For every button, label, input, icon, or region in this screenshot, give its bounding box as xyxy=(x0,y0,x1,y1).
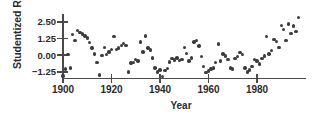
data-point xyxy=(73,39,76,42)
x-axis-tick-label: 1940 xyxy=(140,84,180,95)
data-point xyxy=(277,46,280,49)
data-point xyxy=(292,24,295,27)
x-axis-line xyxy=(62,78,306,80)
data-point xyxy=(88,41,91,44)
data-point xyxy=(231,67,234,70)
x-axis-title-text: Year xyxy=(124,100,191,111)
data-point xyxy=(270,49,273,52)
data-point xyxy=(158,68,161,71)
chart-screenshot: Studentized Residuals 2.501.250.00−1.251… xyxy=(0,0,316,123)
data-point xyxy=(275,40,278,43)
data-point xyxy=(149,48,152,51)
x-axis-title: Year xyxy=(0,100,316,111)
data-point xyxy=(103,46,106,49)
data-point xyxy=(297,16,300,19)
data-point xyxy=(69,66,72,69)
data-point xyxy=(95,61,98,64)
data-point xyxy=(180,58,183,61)
data-point xyxy=(98,73,101,76)
x-axis-tick-label: 1900 xyxy=(43,84,83,95)
data-point xyxy=(280,24,283,27)
data-point xyxy=(200,55,203,58)
data-point xyxy=(110,48,113,51)
y-axis-tick-label: 0.00 xyxy=(22,50,56,61)
data-point xyxy=(202,65,205,68)
y-axis-tick-label: 1.25 xyxy=(22,33,56,44)
y-axis-tick xyxy=(57,21,68,23)
data-point xyxy=(127,70,130,73)
data-point xyxy=(250,65,253,68)
data-point xyxy=(226,58,229,61)
y-axis-tick-label: −1.25 xyxy=(22,66,56,77)
data-point xyxy=(139,40,142,43)
data-point xyxy=(212,66,215,69)
data-point xyxy=(282,28,285,31)
data-point xyxy=(197,44,200,47)
data-point xyxy=(263,54,266,57)
y-axis-tick xyxy=(57,71,68,73)
x-axis-tick-label: 1920 xyxy=(92,84,132,95)
y-axis-tick xyxy=(57,38,68,40)
data-point xyxy=(86,36,89,39)
x-axis-tick xyxy=(256,74,258,83)
data-point xyxy=(71,33,74,36)
data-point xyxy=(141,50,144,53)
x-axis-tick xyxy=(111,74,113,83)
data-point xyxy=(217,42,220,45)
x-axis-tick xyxy=(208,74,210,83)
y-axis-tick-label: 2.50 xyxy=(22,16,56,27)
data-point xyxy=(190,56,193,59)
data-point xyxy=(265,35,268,38)
data-point xyxy=(267,52,270,55)
data-point xyxy=(287,22,290,25)
data-point xyxy=(289,32,292,35)
data-point xyxy=(112,35,115,38)
data-point xyxy=(214,61,217,64)
data-point xyxy=(100,54,103,57)
data-point xyxy=(66,53,69,56)
data-point xyxy=(132,61,135,64)
data-point xyxy=(248,68,251,71)
data-point xyxy=(219,59,222,62)
data-point xyxy=(284,39,287,42)
data-point xyxy=(187,59,190,62)
data-point xyxy=(64,67,67,70)
data-point xyxy=(144,34,147,37)
data-point xyxy=(243,66,246,69)
x-axis-tick-label: 1960 xyxy=(189,84,229,95)
data-point xyxy=(236,55,239,58)
data-point xyxy=(136,59,139,62)
data-point xyxy=(124,44,127,47)
data-point xyxy=(168,60,171,63)
data-point xyxy=(90,46,93,49)
data-point xyxy=(294,30,297,33)
data-point xyxy=(183,46,186,49)
data-point xyxy=(93,52,96,55)
data-point xyxy=(151,56,154,59)
data-point xyxy=(61,74,64,77)
data-point xyxy=(241,53,244,56)
data-point xyxy=(195,39,198,42)
data-point xyxy=(153,66,156,69)
data-point xyxy=(185,52,188,55)
x-axis-tick-label: 1980 xyxy=(237,84,277,95)
data-point xyxy=(258,62,261,65)
data-point xyxy=(166,67,169,70)
